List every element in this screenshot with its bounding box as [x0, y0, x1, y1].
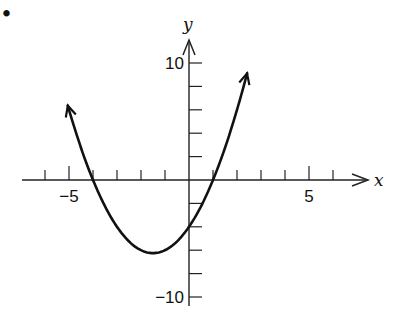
y-tick-label: 10	[165, 54, 184, 73]
x-axis-label: x	[374, 170, 384, 190]
parabola-path	[68, 73, 247, 253]
parabola-chart: −5510−10xy	[0, 0, 409, 324]
x-tick-label: −5	[59, 187, 78, 206]
parabola-curve	[66, 73, 250, 253]
axes	[22, 40, 368, 306]
y-tick-label: −10	[155, 288, 184, 307]
y-axis-label: y	[182, 14, 193, 34]
x-tick-label: 5	[304, 187, 313, 206]
